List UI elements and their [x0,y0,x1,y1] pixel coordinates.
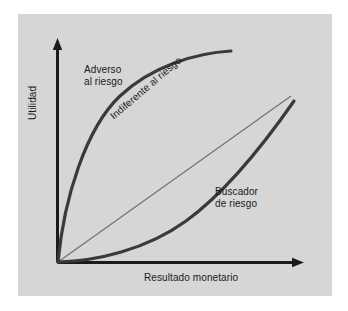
y-axis-label: Utilidad [27,86,39,120]
risk-seeking-label-line2: de riesgo [215,198,258,210]
plot-svg [0,0,348,311]
risk-averse-label: Adverso al riesgo [84,64,123,88]
risk-seeking-label: Buscador de riesgo [215,186,258,210]
risk-neutral-line [58,96,291,262]
risk-seeking-label-line1: Buscador [215,186,258,198]
risk-seeking-curve [58,101,294,262]
figure-container: Adverso al riesgo Indiferente al riesgo … [0,0,348,311]
arrow-right-icon [292,258,304,267]
risk-averse-label-line2: al riesgo [84,76,123,88]
x-axis-label: Resultado monetario [144,272,238,284]
arrow-up-icon [53,38,62,50]
risk-averse-label-line1: Adverso [84,64,123,76]
